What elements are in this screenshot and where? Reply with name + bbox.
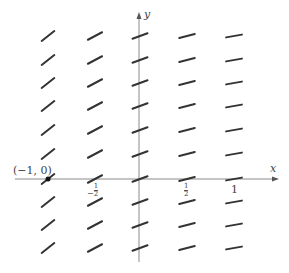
slope-segment	[226, 59, 242, 62]
slope-segment	[179, 128, 195, 132]
slope-segment	[42, 149, 55, 159]
slope-segment	[226, 224, 242, 227]
slope-segment	[42, 243, 55, 253]
slope-segment	[179, 34, 195, 38]
slope-segment	[179, 152, 195, 156]
slope-segment	[132, 151, 147, 156]
slope-segment	[132, 245, 147, 250]
slope-segment	[88, 79, 102, 87]
slope-segment	[226, 178, 242, 181]
initial-point-marker	[46, 177, 51, 182]
slope-segment	[42, 125, 55, 135]
slope-segment	[132, 80, 147, 85]
slope-segment	[42, 55, 55, 65]
slope-segment	[42, 220, 55, 230]
slope-segment	[226, 82, 242, 85]
slope-field-plot	[0, 0, 289, 273]
slope-segment	[226, 201, 242, 204]
slope-segment	[88, 150, 102, 158]
slope-segment	[88, 126, 102, 134]
y-axis-arrow-icon	[137, 12, 142, 19]
denominator: 2	[184, 190, 188, 198]
slope-segment	[88, 221, 102, 229]
slope-segment	[226, 247, 242, 250]
x-tick-label-one: 1	[231, 184, 238, 195]
slope-segment	[132, 33, 147, 38]
point-label: (−1, 0)	[13, 165, 52, 176]
slope-segment	[179, 223, 195, 227]
slope-segment	[132, 103, 147, 108]
slope-segment	[132, 222, 147, 227]
y-axis-label: y	[144, 9, 150, 20]
slope-segment	[42, 31, 55, 41]
slope-segment	[42, 78, 55, 88]
slope-segment	[226, 153, 242, 156]
slope-segment	[88, 56, 102, 64]
tick-sign: −	[87, 189, 94, 198]
slope-segment	[179, 58, 195, 62]
slope-segment	[226, 129, 242, 132]
numerator: 1	[184, 182, 188, 190]
x-tick-label-half: 12	[184, 183, 188, 198]
x-axis-label: x	[270, 163, 276, 174]
x-tick-label-neg-half: −12	[87, 183, 98, 198]
denominator: 2	[94, 190, 98, 198]
fraction: 12	[94, 183, 98, 198]
slope-segment	[132, 127, 147, 132]
slope-segment	[88, 32, 102, 40]
slope-segment	[42, 197, 55, 207]
slope-segment	[179, 81, 195, 85]
fraction: 12	[184, 183, 188, 198]
slope-segment	[42, 101, 55, 111]
slope-segment	[132, 57, 147, 62]
slope-segments	[42, 31, 242, 253]
slope-segment	[88, 102, 102, 110]
slope-segment	[179, 104, 195, 108]
slope-segment	[132, 199, 147, 204]
slope-segment	[179, 200, 195, 204]
numerator: 1	[94, 182, 98, 190]
slope-segment	[179, 246, 195, 250]
x-axis-arrow-icon	[272, 177, 279, 182]
slope-segment	[226, 35, 242, 38]
slope-segment	[226, 105, 242, 108]
slope-segment	[88, 198, 102, 206]
slope-segment	[88, 244, 102, 252]
